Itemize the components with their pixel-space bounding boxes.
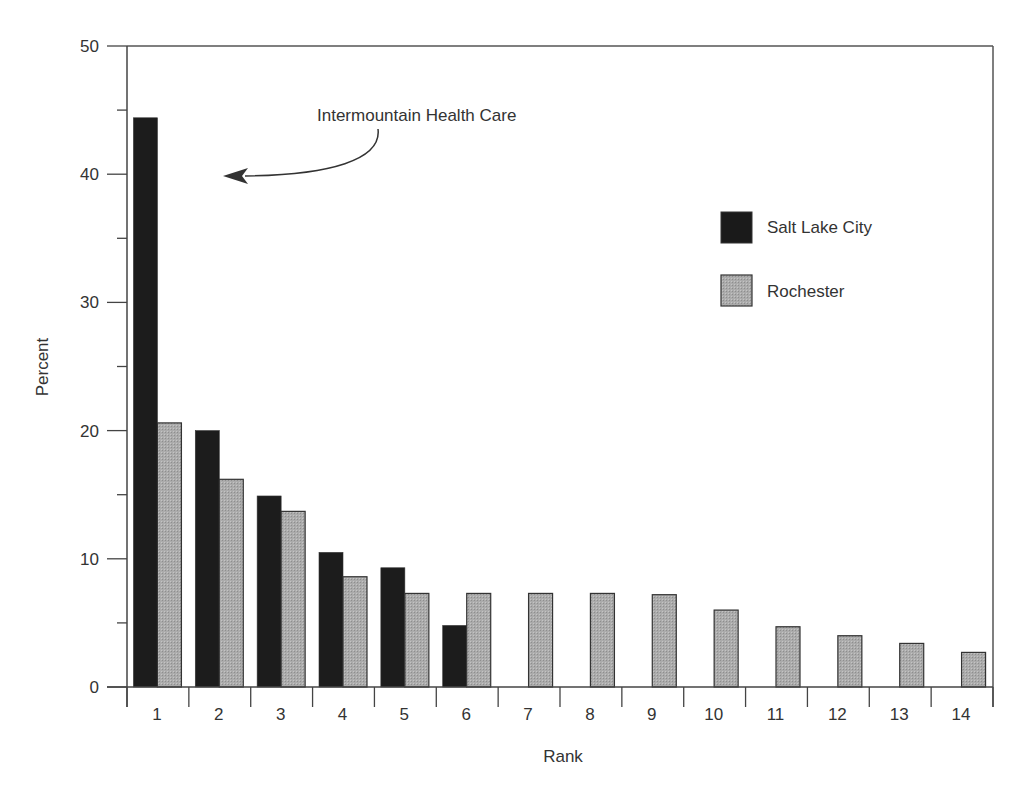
y-tick-label: 20	[80, 422, 99, 441]
bar-rochester-rank-9	[652, 595, 676, 687]
y-tick-label: 0	[90, 678, 99, 697]
bar-salt-lake-city-rank-6	[443, 625, 467, 687]
x-tick-label: 8	[585, 705, 594, 724]
bar-rochester-rank-13	[900, 643, 924, 687]
annotation-arrow	[245, 129, 378, 176]
x-tick-label: 5	[400, 705, 409, 724]
x-tick-label: 2	[214, 705, 223, 724]
bar-salt-lake-city-rank-5	[381, 568, 405, 687]
y-axis-title: Percent	[33, 337, 52, 396]
bar-rochester-rank-5	[405, 593, 429, 687]
x-tick-label: 7	[523, 705, 532, 724]
x-tick-label: 11	[767, 705, 785, 724]
bar-salt-lake-city-rank-4	[319, 552, 343, 687]
legend: Salt Lake City Rochester	[721, 212, 872, 306]
x-tick-label: 3	[276, 705, 285, 724]
bar-rochester-rank-12	[838, 636, 862, 687]
bar-salt-lake-city-rank-3	[257, 496, 281, 687]
x-tick-label: 1	[152, 705, 161, 724]
x-tick-label: 12	[828, 705, 847, 724]
y-tick-label: 40	[80, 165, 99, 184]
legend-label-salt-lake-city: Salt Lake City	[767, 218, 872, 237]
y-tick-label: 50	[80, 37, 99, 56]
bar-rochester-rank-14	[962, 652, 986, 687]
x-tick-label: 4	[338, 705, 347, 724]
bar-rochester-rank-6	[467, 593, 491, 687]
bar-salt-lake-city-rank-1	[133, 118, 157, 687]
bar-rochester-rank-8	[590, 593, 614, 687]
legend-label-rochester: Rochester	[767, 282, 845, 301]
bar-rochester-rank-1	[157, 423, 181, 687]
bar-chart: 010203040501234567891011121314 Percent R…	[0, 0, 1031, 787]
annotation: Intermountain Health Care	[223, 106, 516, 184]
bar-rochester-rank-10	[714, 610, 738, 687]
x-tick-label: 14	[952, 705, 971, 724]
bar-rochester-rank-7	[529, 593, 553, 687]
legend-swatch-salt-lake-city	[721, 212, 752, 243]
annotation-label: Intermountain Health Care	[317, 106, 516, 125]
x-axis-title: Rank	[543, 747, 583, 766]
arrowhead-icon	[223, 168, 248, 184]
y-tick-label: 30	[80, 293, 99, 312]
bar-rochester-rank-4	[343, 577, 367, 687]
x-tick-label: 6	[461, 705, 470, 724]
bar-rochester-rank-11	[776, 627, 800, 687]
y-tick-label: 10	[80, 550, 99, 569]
x-tick-label: 13	[890, 705, 909, 724]
bar-rochester-rank-3	[281, 511, 305, 687]
legend-swatch-rochester	[721, 275, 752, 306]
bar-rochester-rank-2	[219, 479, 243, 687]
bar-salt-lake-city-rank-2	[195, 431, 219, 687]
x-tick-label: 10	[704, 705, 723, 724]
bars	[133, 118, 985, 687]
x-tick-label: 9	[647, 705, 656, 724]
